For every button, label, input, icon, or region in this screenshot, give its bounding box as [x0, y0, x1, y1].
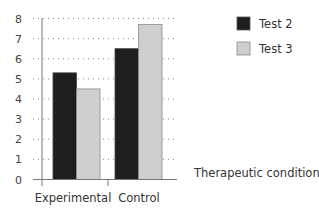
- x-axis-title: Therapeutic condition: [193, 166, 319, 180]
- legend: Test 2 Test 3: [237, 17, 293, 56]
- y-tick-label: 2: [15, 133, 22, 146]
- bar-experimental-test-3: [77, 89, 101, 180]
- legend-label-test-2: Test 2: [258, 17, 293, 31]
- category-labels: Experimental Control: [35, 191, 160, 205]
- y-tick-label: 3: [15, 113, 22, 126]
- category-label-control: Control: [118, 191, 160, 205]
- y-axis-ticks: 012345678: [15, 13, 22, 187]
- bar-chart: 012345678 Experimental Control Therapeut…: [0, 0, 319, 217]
- y-tick-label: 5: [15, 73, 22, 86]
- y-tick-label: 8: [15, 13, 22, 26]
- bar-experimental-test-2: [53, 73, 77, 180]
- y-tick-label: 4: [15, 93, 22, 106]
- y-tick-label: 0: [15, 174, 22, 187]
- bar-control-test-3: [139, 25, 163, 180]
- y-tick-label: 1: [15, 153, 22, 166]
- legend-label-test-3: Test 3: [258, 42, 293, 56]
- category-label-experimental: Experimental: [35, 191, 112, 205]
- y-tick-label: 7: [15, 33, 22, 46]
- y-tick-label: 6: [15, 53, 22, 66]
- bars: [53, 25, 162, 180]
- bar-control-test-2: [115, 49, 139, 180]
- legend-swatch-test-2: [237, 17, 250, 30]
- legend-swatch-test-3: [237, 42, 250, 55]
